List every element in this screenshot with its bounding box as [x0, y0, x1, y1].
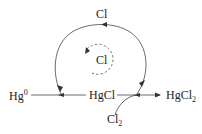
- label-cl-inner: Cl: [96, 54, 107, 66]
- arc-arrowhead-left: [57, 85, 63, 92]
- label-hg0: Hg0: [9, 89, 28, 102]
- label-cl-top: Cl: [96, 8, 107, 20]
- label-hgcl2: HgCl2: [166, 89, 196, 104]
- label-hgcl: HgCl: [89, 89, 115, 101]
- label-cl2: Cl2: [107, 113, 122, 128]
- arc-arrowhead-top: [101, 22, 107, 27]
- arc-arrowhead-right: [139, 80, 145, 87]
